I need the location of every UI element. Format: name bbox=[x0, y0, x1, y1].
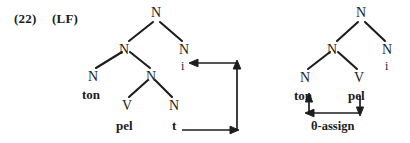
right-tree-right-branch-node: N bbox=[382, 43, 392, 57]
left-tree-root-node: N bbox=[151, 6, 161, 20]
left-tree-inner-node: N bbox=[119, 43, 129, 57]
right-tree-verb-node: V bbox=[354, 71, 364, 85]
figure-canvas: (22) (LF) N N i N N ton N V pel N t N N … bbox=[0, 0, 410, 143]
left-tree-subject-node: N bbox=[88, 70, 98, 84]
theta-assign-label: θ-assign bbox=[311, 120, 354, 133]
right-tree-subject-terminal: ton bbox=[294, 89, 312, 102]
right-tree-root-node: N bbox=[356, 6, 366, 20]
right-tree-inner-node: N bbox=[327, 43, 337, 57]
example-number: (22) bbox=[14, 12, 36, 25]
left-tree-subject-terminal: ton bbox=[82, 88, 100, 101]
right-tree-branches bbox=[308, 22, 385, 69]
left-tree-verb-terminal: pel bbox=[116, 119, 133, 132]
right-tree-right-branch-index: i bbox=[385, 60, 388, 72]
left-tree-verb-node: V bbox=[122, 99, 132, 113]
left-tree-right-branch-index: i bbox=[181, 60, 184, 72]
movement-arrow-path bbox=[182, 59, 241, 134]
left-tree-right-branch-node: N bbox=[179, 43, 189, 57]
left-tree-branches bbox=[96, 22, 182, 97]
left-tree-trace-terminal: t bbox=[172, 119, 176, 132]
representation-label: (LF) bbox=[52, 12, 78, 25]
right-tree-subject-node: N bbox=[300, 71, 310, 85]
left-tree-vp-node: N bbox=[146, 70, 156, 84]
left-tree-trace-node: N bbox=[169, 99, 179, 113]
right-tree-verb-terminal: pel bbox=[348, 89, 365, 102]
